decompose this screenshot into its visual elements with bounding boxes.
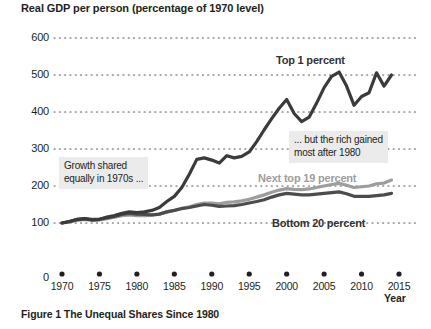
x-axis-tick-dot	[322, 271, 327, 276]
y-axis-tick-label: 200	[19, 179, 49, 191]
callout-growth-shared-1970s: Growth shared equally in 1970s ...	[59, 157, 148, 189]
y-axis-tick-label: 600	[19, 31, 49, 43]
callout-line-2: equally in 1970s ...	[64, 173, 143, 186]
y-axis-tick-label: 300	[19, 142, 49, 154]
y-axis-tick-label: 500	[19, 68, 49, 80]
x-axis-tick-dot	[396, 271, 401, 276]
x-axis-tick-dot	[359, 271, 364, 276]
callout-rich-gained-after-1980: ... but the rich gained most after 1980	[289, 131, 388, 163]
x-axis-tick-dot	[59, 271, 64, 276]
x-axis-ticks-group	[59, 271, 401, 276]
x-axis-tick-dot	[284, 271, 289, 276]
x-axis-tick-label: 1970	[42, 280, 82, 292]
x-axis-tick-dot	[172, 271, 177, 276]
callout-line-1: Growth shared	[64, 160, 143, 173]
figure-caption: Figure 1 The Unequal Shares Since 1980	[21, 308, 219, 320]
x-axis-tick-label: 1980	[117, 280, 157, 292]
series-label-top-1-percent: Top 1 percent	[276, 54, 345, 66]
x-axis-tick-dot	[247, 271, 252, 276]
y-axis-tick-label: 100	[19, 216, 49, 228]
x-axis-tick-label: 2010	[342, 280, 382, 292]
series-label-bottom-20-percent: Bottom 20 percent	[272, 217, 365, 229]
x-axis-tick-dot	[134, 271, 139, 276]
x-axis-tick-label: 1975	[79, 280, 119, 292]
figure-container: Real GDP per person (percentage of 1970 …	[0, 0, 431, 329]
series-label-next-top-19-percent: Next top 19 percent	[258, 172, 356, 184]
x-axis-tick-label: 2005	[304, 280, 344, 292]
x-axis-tick-label: 1995	[229, 280, 269, 292]
x-axis-tick-label: 1990	[192, 280, 232, 292]
callout-line-1: ... but the rich gained	[294, 134, 383, 147]
x-axis-tick-dot	[97, 271, 102, 276]
x-axis-tick-label: 1985	[154, 280, 194, 292]
x-axis-tick-label: 2015	[379, 280, 419, 292]
x-axis-title: Year	[384, 292, 406, 304]
x-axis-tick-label: 2000	[267, 280, 307, 292]
callout-line-2: most after 1980	[294, 147, 383, 160]
y-axis-tick-label: 400	[19, 105, 49, 117]
x-axis-tick-dot	[209, 271, 214, 276]
